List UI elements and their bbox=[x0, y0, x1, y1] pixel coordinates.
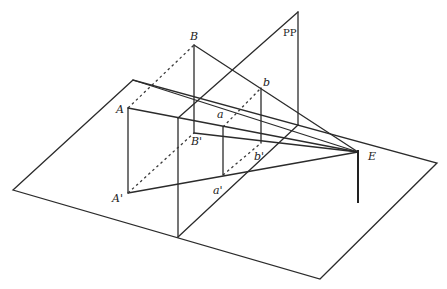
label-B-prime: B' bbox=[190, 135, 202, 148]
label-a: a bbox=[217, 108, 224, 121]
label-b-prime: b' bbox=[254, 150, 264, 163]
label-E: E bbox=[367, 150, 376, 163]
perspective-diagram: B PP A a b B' E b' A' a' bbox=[0, 0, 447, 289]
object-edges bbox=[128, 45, 358, 193]
label-A-prime: A' bbox=[111, 192, 123, 205]
label-PP: PP bbox=[283, 27, 297, 38]
label-A: A bbox=[115, 103, 124, 116]
label-b: b bbox=[263, 76, 270, 89]
label-a-prime: a' bbox=[213, 184, 223, 197]
label-B: B bbox=[189, 30, 198, 43]
